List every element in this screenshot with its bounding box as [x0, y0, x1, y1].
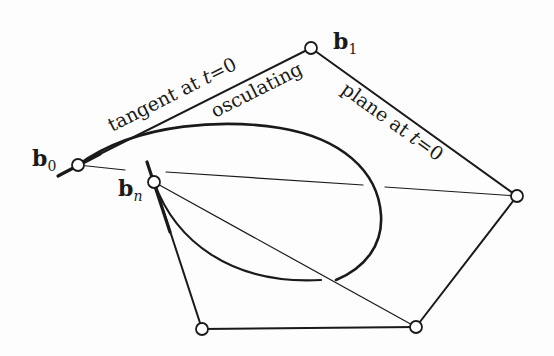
vertex-b2	[511, 190, 523, 202]
label-bn: bn	[118, 175, 142, 204]
label-b0-base: b	[32, 145, 47, 171]
vertex-b1	[305, 42, 317, 54]
label-b1-sub: 1	[348, 41, 357, 57]
edge-b3-b4	[202, 327, 416, 329]
bezier-curve-upper	[78, 124, 381, 280]
plane-text: plane at	[338, 77, 419, 144]
label-b1-base: b	[333, 28, 348, 54]
annotation-plane: plane at t=0	[338, 77, 448, 165]
vertex-b0	[72, 159, 84, 171]
vertex-bn	[148, 176, 160, 188]
vertex-b4	[196, 323, 208, 335]
label-bn-sub: n	[133, 188, 142, 204]
edge-b2-b3	[416, 196, 517, 327]
label-bn-base: b	[118, 175, 133, 201]
vertex-b3	[410, 321, 422, 333]
label-b0-sub: 0	[47, 158, 56, 174]
osculating-plane-diagram: b0 b1 bn tangent at t=0 osculating plane…	[0, 0, 554, 356]
label-b0: b0	[32, 145, 56, 174]
diagonal-b0-b2-seg1	[78, 165, 125, 170]
label-b1: b1	[333, 28, 357, 57]
bezier-curve-lower	[154, 182, 321, 280]
edge-b0-b1-tangent	[78, 48, 311, 165]
diagonal-b0-b2-seg2	[166, 172, 363, 185]
diagonal-b0-b2-seg3	[385, 187, 517, 196]
diagram-svg: b0 b1 bn tangent at t=0 osculating plane…	[0, 0, 554, 356]
